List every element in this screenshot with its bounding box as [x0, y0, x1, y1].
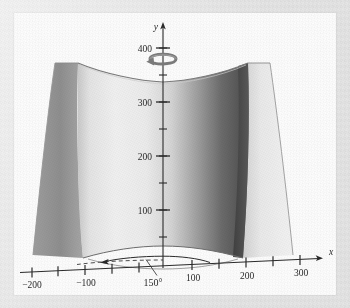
- x-axis-ticks: [32, 255, 300, 277]
- figure-root: 100 200 300 400 y: [0, 0, 350, 308]
- x-tick-label-300: 300: [294, 268, 309, 278]
- figure-drawing: 100 200 300 400 y: [0, 0, 350, 308]
- x-tick-label-minus100: −100: [76, 278, 96, 288]
- surface-left-back-wedge: [33, 63, 83, 258]
- sweep-dashed-arc: [77, 260, 163, 265]
- x-axis-line: [20, 259, 319, 273]
- y-axis-name: y: [153, 22, 159, 32]
- y-tick-label-100: 100: [138, 206, 153, 216]
- y-tick-label-200: 200: [138, 152, 153, 162]
- rotation-arrow-icon: [146, 54, 176, 65]
- y-tick-label-300: 300: [138, 98, 153, 108]
- angle-leader-line: [146, 260, 157, 276]
- x-tick-label-minus200: −200: [22, 280, 42, 290]
- x-tick-label-100: 100: [186, 273, 201, 283]
- surface-right-back-wedge: [243, 63, 293, 258]
- angle-label-150: 150°: [144, 277, 163, 288]
- y-tick-label-400: 400: [138, 44, 153, 54]
- x-tick-label-200: 200: [240, 271, 255, 281]
- sweep-solid-arc: [104, 256, 210, 262]
- x-axis-name: x: [328, 247, 334, 257]
